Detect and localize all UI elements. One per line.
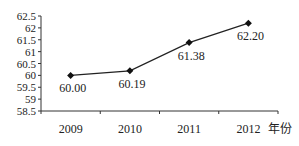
y-tick-label: 61.5	[17, 34, 37, 46]
x-tick-label: 2010	[118, 122, 142, 136]
data-series: 60.0060.1961.3862.20	[59, 20, 264, 96]
y-tick-label: 60	[25, 69, 37, 81]
x-tick-label: 2012	[236, 122, 260, 136]
diamond-marker-icon	[186, 39, 193, 46]
data-label: 60.00	[59, 81, 86, 95]
y-tick-label: 61	[25, 46, 36, 58]
y-tick-label: 59	[25, 93, 37, 105]
y-tick-label: 62.5	[17, 10, 37, 22]
data-label: 61.38	[178, 49, 205, 63]
data-label: 62.20	[237, 29, 264, 43]
x-axis: 2009201020112012	[41, 111, 278, 136]
diamond-marker-icon	[126, 67, 133, 74]
y-tick-label: 62	[25, 22, 36, 34]
data-label: 60.19	[118, 77, 145, 91]
x-tick-label: 2009	[59, 122, 83, 136]
y-axis: 58.55959.56060.56161.56262.5	[17, 10, 41, 117]
x-axis-label: 年份	[268, 122, 292, 136]
diamond-marker-icon	[67, 72, 74, 79]
y-tick-label: 59.5	[17, 81, 37, 93]
y-tick-label: 58.5	[17, 105, 37, 117]
line-chart: 58.55959.56060.56161.56262.5 20092010201…	[0, 0, 299, 146]
x-tick-label: 2011	[177, 122, 201, 136]
series-line	[71, 23, 249, 75]
diamond-marker-icon	[245, 20, 252, 27]
y-tick-label: 60.5	[17, 58, 37, 70]
